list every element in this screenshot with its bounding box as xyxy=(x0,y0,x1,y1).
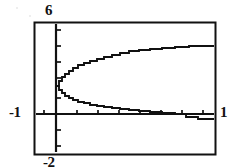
y-max-label: 6 xyxy=(45,3,52,18)
x-max-label: 1 xyxy=(220,105,227,120)
graph-plot xyxy=(0,0,234,168)
y-min-label: -2 xyxy=(43,155,55,168)
plot-frame xyxy=(35,23,216,155)
graph-viewport: 6 -2 -1 1 xyxy=(0,0,234,168)
x-min-label: -1 xyxy=(9,105,21,120)
